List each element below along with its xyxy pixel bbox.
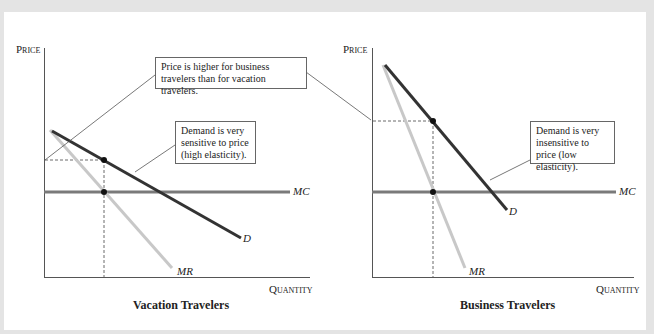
right-quantity-axis-label: Quantity: [596, 283, 640, 295]
leader-price-left: [45, 75, 155, 160]
left-d-label: D: [243, 232, 251, 244]
leader-price-right: [306, 72, 371, 120]
right-mc-label: MC: [619, 185, 636, 197]
left-mc-label: MC: [293, 185, 310, 197]
right-mr-label: MR: [469, 265, 485, 277]
right-mrmc-dot: [430, 189, 436, 195]
left-mr-line: [50, 130, 172, 268]
left-mr-label: MR: [177, 265, 193, 277]
right-guides: [373, 121, 433, 277]
right-chart-title: Business Travelers: [460, 298, 555, 313]
left-guides: [45, 160, 104, 277]
left-quantity-axis-label: Quantity: [269, 283, 313, 295]
left-price-dot: [101, 157, 107, 163]
right-price-axis-label: Price: [343, 43, 367, 55]
callout-high-elasticity: Demand is very sensitive to price (high …: [175, 121, 256, 164]
left-mrmc-dot: [101, 189, 107, 195]
right-demand-line: [385, 65, 507, 210]
leader-right-elasticity: [490, 160, 530, 180]
callout-low-elasticity: Demand is very insensitive to price (low…: [530, 121, 615, 164]
right-price-dot: [430, 118, 436, 124]
left-price-axis-label: Price: [16, 43, 40, 55]
leader-left-elasticity: [135, 145, 175, 172]
left-chart-title: Vacation Travelers: [133, 298, 229, 313]
right-d-label: D: [509, 205, 517, 217]
right-mr-line: [383, 65, 465, 268]
callout-price-higher: Price is higher for business travelers t…: [155, 57, 307, 89]
